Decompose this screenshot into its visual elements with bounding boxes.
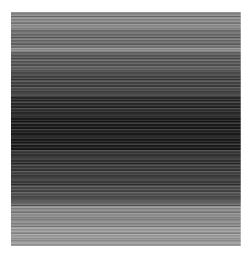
image-edge — [240, 12, 241, 246]
fine-line-texture-dark — [11, 12, 241, 246]
stripe-image — [11, 12, 241, 246]
